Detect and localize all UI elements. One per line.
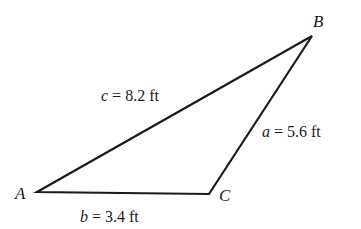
- vertex-label-a: A: [15, 185, 25, 202]
- side-label-a: a = 5.6 ft: [262, 124, 321, 140]
- triangle-diagram: [0, 0, 361, 229]
- side-a-equals: =: [270, 123, 287, 140]
- side-c-equals: =: [108, 87, 125, 104]
- side-b-value: 3.4 ft: [105, 208, 139, 225]
- side-label-b: b = 3.4 ft: [80, 209, 139, 225]
- side-a-value: 5.6 ft: [287, 123, 321, 140]
- side-b-variable: b: [80, 208, 88, 225]
- side-a-variable: a: [262, 123, 270, 140]
- vertex-label-c: C: [219, 187, 230, 204]
- triangle-abc: [37, 36, 312, 194]
- vertex-label-b: B: [313, 13, 323, 30]
- side-label-c: c = 8.2 ft: [101, 88, 159, 104]
- side-c-value: 8.2 ft: [125, 87, 159, 104]
- side-b-equals: =: [88, 208, 105, 225]
